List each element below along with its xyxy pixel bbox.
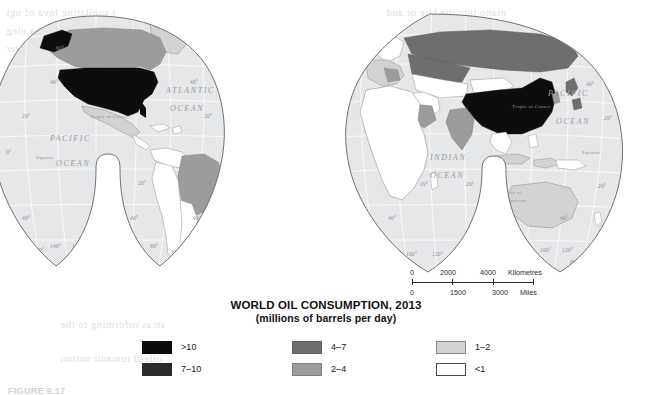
svg-text:PACIFIC: PACIFIC <box>49 134 91 143</box>
svg-text:40°: 40° <box>560 215 568 221</box>
svg-text:INDIAN: INDIAN <box>429 153 466 162</box>
map-title: WORLD OIL CONSUMPTION, 2013 <box>0 299 652 311</box>
svg-text:0°: 0° <box>6 149 11 155</box>
svg-text:Equator: Equator <box>36 155 54 160</box>
svg-text:120°: 120° <box>562 247 573 253</box>
svg-text:OCEAN: OCEAN <box>170 104 204 113</box>
legend-label-1-2: 1–2 <box>475 342 490 352</box>
scale-mi-unit: Miles <box>520 288 537 297</box>
svg-text:40°: 40° <box>130 215 138 221</box>
svg-text:OCEAN: OCEAN <box>556 117 590 126</box>
map-subtitle: (millions of barrels per day) <box>0 312 652 324</box>
svg-text:Tropic of Cancer: Tropic of Cancer <box>90 114 129 119</box>
legend-swatch-lt1 <box>436 363 466 376</box>
scale-km-unit: Kilometres <box>508 268 542 277</box>
svg-text:40°: 40° <box>586 81 594 87</box>
legend-column-3: 1–2 <1 <box>436 336 616 380</box>
svg-text:160°: 160° <box>604 247 615 253</box>
svg-text:Capricorn: Capricorn <box>504 198 527 203</box>
svg-text:20°: 20° <box>22 113 30 119</box>
svg-text:OCEAN: OCEAN <box>430 171 464 180</box>
svg-text:100°: 100° <box>406 251 417 257</box>
svg-text:140°: 140° <box>460 251 471 257</box>
svg-text:Tropic of: Tropic of <box>500 190 521 195</box>
legend-label-gt10: >10 <box>181 342 197 352</box>
legend-label-lt1: <1 <box>475 364 485 374</box>
svg-text:20°: 20° <box>205 180 213 186</box>
svg-text:100°: 100° <box>540 247 551 253</box>
svg-text:Equator: Equator <box>582 150 600 155</box>
scale-km-4000: 4000 <box>480 268 496 277</box>
legend-item: <1 <box>436 358 616 380</box>
legend-item: 1–2 <box>436 336 616 358</box>
scale-mi-0: 0 <box>410 288 414 297</box>
svg-text:Arctic: Arctic <box>336 42 351 47</box>
map-legend: >10 7–10 4–7 2–4 1–2 <1 <box>0 336 652 380</box>
map-lobe-western: 60° 40° 40° 20° 20° 0° 20° 20° 40° 40° 4… <box>0 8 260 280</box>
legend-label-2-4: 2–4 <box>331 364 346 374</box>
svg-text:60°: 60° <box>56 45 64 51</box>
svg-text:60°: 60° <box>350 251 358 257</box>
legend-swatch-1-2 <box>436 341 466 354</box>
scale-mi-3000: 3000 <box>492 288 508 297</box>
scale-mi-1500: 1500 <box>450 288 466 297</box>
legend-swatch-7-10 <box>142 363 172 376</box>
svg-text:Antarctic Circle: Antarctic Circle <box>354 262 391 267</box>
legend-swatch-gt10 <box>142 341 172 354</box>
svg-text:20°: 20° <box>604 115 612 121</box>
svg-text:Tropic of Cancer: Tropic of Cancer <box>512 104 551 109</box>
map-scale-bar: 0 2000 4000 Kilometres 0 1500 3000 Miles <box>404 268 564 298</box>
figure-title-block: WORLD OIL CONSUMPTION, 2013 (millions of… <box>0 299 652 324</box>
svg-text:20°: 20° <box>420 181 428 187</box>
svg-text:40°: 40° <box>190 79 198 85</box>
svg-text:40°: 40° <box>22 215 30 221</box>
legend-swatch-4-7 <box>292 341 322 354</box>
legend-swatch-2-4 <box>292 363 322 376</box>
svg-text:PACIFIC: PACIFIC <box>547 89 589 98</box>
scale-km-2000: 2000 <box>440 268 456 277</box>
svg-text:60°: 60° <box>348 51 356 57</box>
svg-text:60°: 60° <box>110 247 118 253</box>
scale-rule <box>412 279 534 285</box>
world-map: 60° 40° 40° 20° 20° 0° 20° 20° 40° 40° 4… <box>0 8 652 280</box>
figure-caption: FIGURE 9.17 <box>8 386 65 395</box>
svg-text:140°: 140° <box>50 243 61 249</box>
svg-text:0°: 0° <box>628 149 633 155</box>
svg-text:40°: 40° <box>388 215 396 221</box>
svg-text:20°: 20° <box>138 180 146 186</box>
svg-text:20°: 20° <box>466 181 474 187</box>
svg-text:Circle: Circle <box>340 49 354 54</box>
legend-label-4-7: 4–7 <box>331 342 346 352</box>
scale-km-0: 0 <box>410 268 414 277</box>
svg-text:120°: 120° <box>432 251 443 257</box>
svg-text:20°: 20° <box>204 113 212 119</box>
svg-text:ATLANTIC: ATLANTIC <box>165 86 215 95</box>
svg-text:80°: 80° <box>150 243 158 249</box>
svg-text:OCEAN: OCEAN <box>56 159 90 168</box>
svg-text:20°: 20° <box>598 183 606 189</box>
map-lobe-eastern: Arctic Circle 60° 40° 20° 0° 20° 20° 20°… <box>330 8 640 280</box>
legend-label-7-10: 7–10 <box>181 364 201 374</box>
svg-text:40°: 40° <box>50 79 58 85</box>
